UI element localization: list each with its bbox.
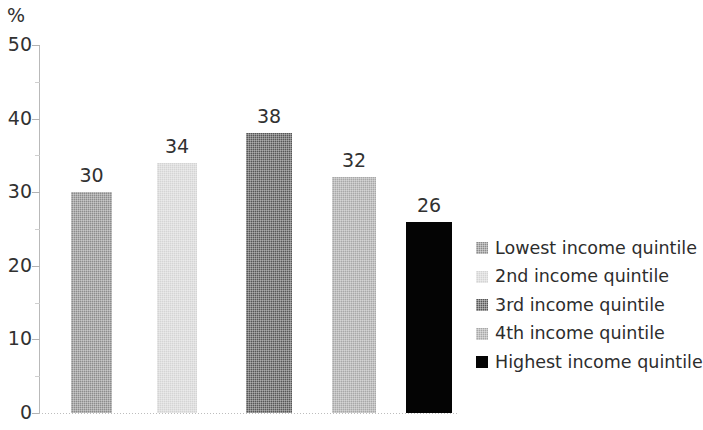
bar-value-label: 32 [342,151,366,170]
legend-item-3[interactable]: 3rd income quintile [476,291,698,320]
bar-fill [71,192,112,413]
legend-item-label: Lowest income quintile [495,240,697,258]
bar-fill [157,163,197,413]
bar-value-label: 34 [165,137,189,156]
legend-item-label: 3rd income quintile [495,297,665,315]
legend-item-5[interactable]: Highest income quintile [476,348,698,377]
bar-value-label: 26 [417,196,441,215]
legend-item-label: 2nd income quintile [495,268,669,286]
legend-swatch-icon [476,356,488,368]
bar-value-label: 30 [79,166,103,185]
legend-item-2[interactable]: 2nd income quintile [476,263,698,292]
legend-swatch-icon [476,242,488,254]
legend-item-1[interactable]: Lowest income quintile [476,234,698,263]
bar-value-label: 38 [257,107,281,126]
bar-fill [406,222,452,413]
legend-swatch-icon [476,328,488,340]
bar-3: 38 [246,133,292,413]
legend-item-4[interactable]: 4th income quintile [476,320,698,349]
bar-2: 34 [157,163,197,413]
bar-4: 32 [332,177,376,413]
bar-1: 30 [71,192,112,413]
plot-area: 3034383226 [0,0,470,430]
legend-item-label: Highest income quintile [495,354,703,372]
legend-swatch-icon [476,271,488,283]
bar-fill [332,177,376,413]
chart-legend: Lowest income quintile2nd income quintil… [476,234,698,377]
bar-5: 26 [406,222,452,413]
bar-fill [246,133,292,413]
legend-swatch-icon [476,299,488,311]
legend-item-label: 4th income quintile [495,325,665,343]
